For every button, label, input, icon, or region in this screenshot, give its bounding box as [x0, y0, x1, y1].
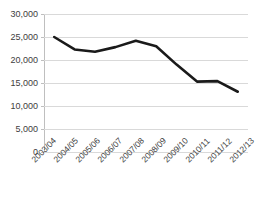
y-axis-label-25000: 25,000	[0, 33, 38, 42]
series-polyline	[54, 37, 238, 92]
plot-area	[44, 14, 248, 152]
y-axis-label-15000: 15,000	[0, 79, 38, 88]
y-axis-label-10000: 10,000	[0, 102, 38, 111]
x-axis-labels: 2003/04 2004/05 2005/06 2006/07 2007/08 …	[0, 152, 256, 203]
line-chart: 30,000 25,000 20,000 15,000 10,000 5,000…	[0, 0, 256, 203]
y-axis-label-5000: 5,000	[0, 125, 38, 134]
y-axis-label-30000: 30,000	[0, 10, 38, 19]
data-series-line	[44, 14, 248, 152]
chart-title	[48, 0, 223, 7]
y-axis-label-20000: 20,000	[0, 56, 38, 65]
